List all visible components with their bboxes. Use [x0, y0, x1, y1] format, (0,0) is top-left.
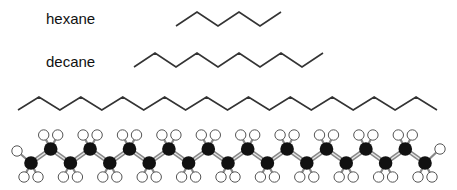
long-chain-skeletal-formula [18, 97, 437, 110]
ball-and-stick-model [12, 130, 445, 182]
decane-skeletal-formula [134, 53, 323, 67]
alkane-structures-figure [0, 0, 457, 190]
hexane-skeletal-formula [176, 12, 281, 26]
